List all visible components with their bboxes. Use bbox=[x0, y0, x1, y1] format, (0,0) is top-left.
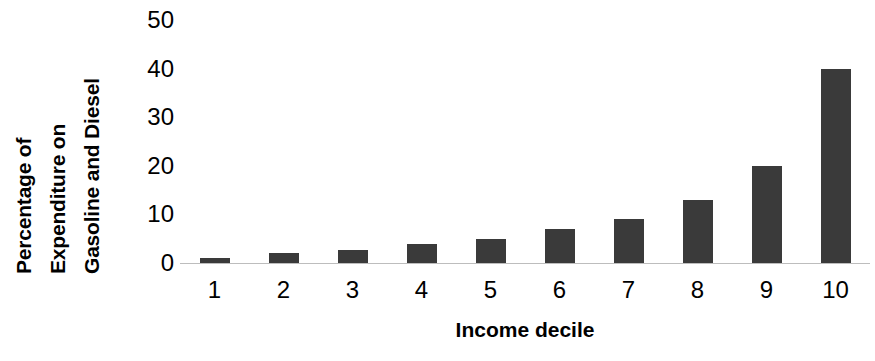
y-axis-title-line-2: Expenditure on bbox=[47, 124, 68, 274]
bar bbox=[821, 69, 851, 263]
bar bbox=[269, 253, 299, 263]
bar bbox=[614, 219, 644, 263]
y-axis-tick-labels: 01020304050 bbox=[128, 0, 174, 290]
bar-chart: Percentage of Expenditure on Gasoline an… bbox=[0, 0, 875, 361]
plot-area bbox=[180, 20, 870, 263]
x-axis-tick-label: 10 bbox=[801, 276, 870, 304]
x-axis-tick-labels: 12345678910 bbox=[180, 276, 870, 306]
x-axis-tick-label: 8 bbox=[663, 276, 732, 304]
y-axis-tick-label: 20 bbox=[128, 154, 174, 178]
bar bbox=[752, 166, 782, 263]
x-axis-title: Income decile bbox=[180, 318, 870, 342]
bar bbox=[338, 250, 368, 263]
x-axis-tick-label: 2 bbox=[249, 276, 318, 304]
bar bbox=[200, 258, 230, 263]
y-axis-tick-label: 30 bbox=[128, 105, 174, 129]
x-axis-tick-label: 1 bbox=[180, 276, 249, 304]
y-axis-tick-label: 10 bbox=[128, 202, 174, 226]
bar bbox=[476, 239, 506, 263]
y-axis-title-line-3: Gasoline and Diesel bbox=[81, 78, 102, 274]
y-axis-tick-label: 50 bbox=[128, 8, 174, 32]
x-axis-line bbox=[180, 263, 870, 264]
x-axis-tick-label: 9 bbox=[732, 276, 801, 304]
x-axis-tick-label: 7 bbox=[594, 276, 663, 304]
y-axis-title: Percentage of Expenditure on Gasoline an… bbox=[0, 0, 130, 290]
y-axis-tick-label: 0 bbox=[128, 251, 174, 275]
x-axis-tick-label: 5 bbox=[456, 276, 525, 304]
x-axis-tick-label: 4 bbox=[387, 276, 456, 304]
bar bbox=[545, 229, 575, 263]
x-axis-tick-label: 3 bbox=[318, 276, 387, 304]
x-axis-tick-label: 6 bbox=[525, 276, 594, 304]
y-axis-title-line-1: Percentage of bbox=[13, 138, 34, 274]
y-axis-tick-label: 40 bbox=[128, 57, 174, 81]
bar bbox=[683, 200, 713, 263]
bar bbox=[407, 244, 437, 263]
